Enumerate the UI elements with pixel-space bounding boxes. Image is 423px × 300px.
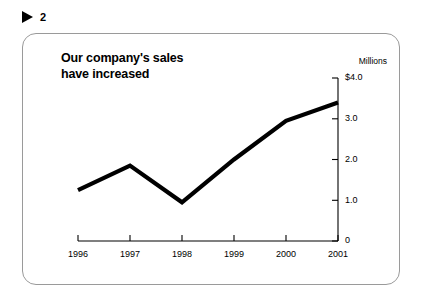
play-triangle-icon [22, 11, 33, 23]
x-tick-label-1996: 1996 [68, 249, 88, 259]
slide-marker: 2 [22, 9, 46, 25]
slide-number: 2 [40, 12, 46, 23]
y-tick-label-1: 1.0 [345, 195, 358, 205]
y-tick-label-3: 3.0 [345, 113, 358, 123]
x-tick-label-2000: 2000 [276, 249, 296, 259]
y-tick-label-0: 0 [345, 235, 350, 245]
page-root: 2 Our company's sales have increased Mil… [0, 0, 423, 300]
x-tick-label-1997: 1997 [120, 249, 140, 259]
chart-card: Our company's sales have increased Milli… [22, 33, 400, 285]
x-tick-label-2001: 2001 [328, 249, 348, 259]
y-tick-label-2: 2.0 [345, 154, 358, 164]
x-tick-label-1998: 1998 [172, 249, 192, 259]
x-axis-ticks [78, 235, 338, 241]
x-tick-label-1999: 1999 [224, 249, 244, 259]
sales-line-series [78, 102, 338, 202]
y-tick-label-4: $4.0 [345, 72, 363, 82]
